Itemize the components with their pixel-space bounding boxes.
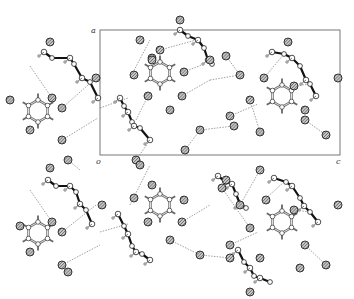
unit-cell-box: [100, 30, 340, 155]
molecular-chains: [38, 27, 321, 284]
axis-label-a: a: [91, 26, 96, 35]
axis-label-origin: o: [96, 157, 101, 166]
crystal-packing-diagram: [0, 0, 354, 299]
axis-label-c: c: [336, 157, 340, 166]
aromatic-rings: [23, 55, 297, 250]
